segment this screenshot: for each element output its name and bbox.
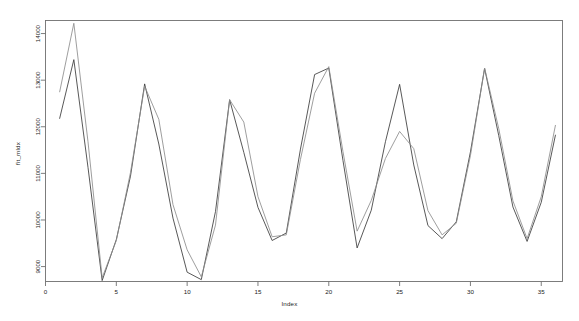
- x-tick-label: 30: [467, 288, 474, 295]
- x-axis-title: Index: [0, 300, 579, 307]
- chart-svg: 9000100001100012000130001400005101520253…: [0, 0, 579, 321]
- x-tick-label: 5: [115, 288, 119, 295]
- plot-canvas: 9000100001100012000130001400005101520253…: [0, 0, 579, 321]
- y-tick-label: 9000: [34, 259, 41, 273]
- x-tick-label: 15: [255, 288, 262, 295]
- y-tick-label: 14000: [34, 24, 41, 42]
- y-tick-label: 13000: [34, 71, 41, 89]
- x-tick-label: 35: [538, 288, 545, 295]
- y-tick-label: 10000: [34, 211, 41, 229]
- x-tick-label: 25: [396, 288, 403, 295]
- data-series-fitted: [60, 23, 556, 277]
- data-series-observed: [60, 60, 556, 281]
- y-axis-title: fit_mldx: [14, 124, 21, 184]
- y-tick-label: 12000: [34, 118, 41, 136]
- plot-frame: [46, 21, 563, 282]
- x-tick-label: 0: [44, 288, 48, 295]
- x-tick-label: 10: [184, 288, 191, 295]
- x-tick-label: 20: [325, 288, 332, 295]
- y-tick-label: 11000: [34, 164, 41, 181]
